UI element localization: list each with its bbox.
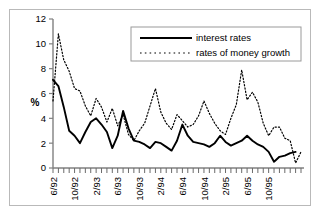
legend-label-1: interest rates [196, 32, 251, 43]
x-tick-label: 10/95 [263, 177, 274, 201]
y-tick-label: 4 [41, 113, 46, 124]
x-axis: 6/9210/922/936/9310/932/946/9410/942/956… [48, 168, 304, 201]
x-tick-label: 10/94 [199, 177, 210, 201]
y-tick-label: 12 [35, 13, 46, 24]
y-tick-label: 0 [41, 162, 46, 173]
chart-legend: interest ratesrates of money growth [131, 27, 301, 61]
x-tick-label: 6/93 [112, 177, 123, 196]
y-axis: 024681012 [35, 13, 53, 173]
y-tick-label: 8 [41, 63, 46, 74]
y-tick-label: 6 [41, 88, 46, 99]
x-tick-label: 2/95 [220, 177, 231, 196]
x-tick-label: 2/93 [91, 177, 102, 196]
x-tick-label: 6/94 [177, 177, 188, 196]
y-axis-label: % [31, 97, 40, 108]
x-tick-label: 10/92 [69, 177, 80, 201]
x-tick-label: 6/92 [48, 177, 59, 196]
line-chart: 024681012 6/9210/922/936/9310/932/946/94… [10, 10, 310, 205]
x-tick-label: 10/93 [134, 177, 145, 201]
y-tick-label: 2 [41, 138, 46, 149]
y-tick-label: 10 [35, 38, 46, 49]
legend-label-2: rates of money growth [196, 47, 290, 58]
x-tick-label: 6/95 [242, 177, 253, 196]
x-tick-label: 2/94 [155, 177, 166, 196]
figure-frame: 024681012 6/9210/922/936/9310/932/946/94… [9, 9, 311, 206]
